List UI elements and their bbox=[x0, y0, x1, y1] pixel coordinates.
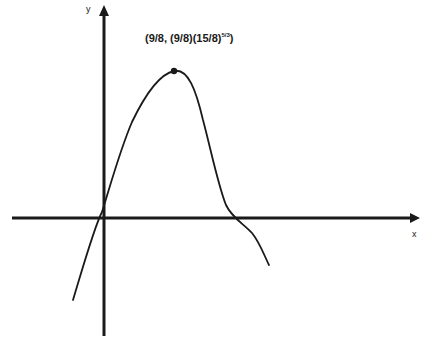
y-axis-arrow-icon bbox=[99, 5, 109, 16]
maximum-point-label: (9/8, (9/8)(15/8)5/3) bbox=[145, 32, 233, 44]
x-axis bbox=[12, 213, 420, 223]
maximum-point-marker bbox=[171, 68, 177, 74]
graph-canvas bbox=[0, 0, 427, 342]
y-axis bbox=[99, 5, 109, 336]
x-axis-label: x bbox=[412, 229, 417, 239]
maximum-point-label-main: (9/8, (9/8)(15/8) bbox=[145, 32, 221, 44]
function-curve bbox=[73, 71, 269, 300]
maximum-point-label-close: ) bbox=[230, 32, 234, 44]
y-axis-label: y bbox=[86, 4, 91, 14]
maximum-point-label-exponent: 5/3 bbox=[221, 32, 229, 38]
x-axis-arrow-icon bbox=[410, 213, 420, 223]
